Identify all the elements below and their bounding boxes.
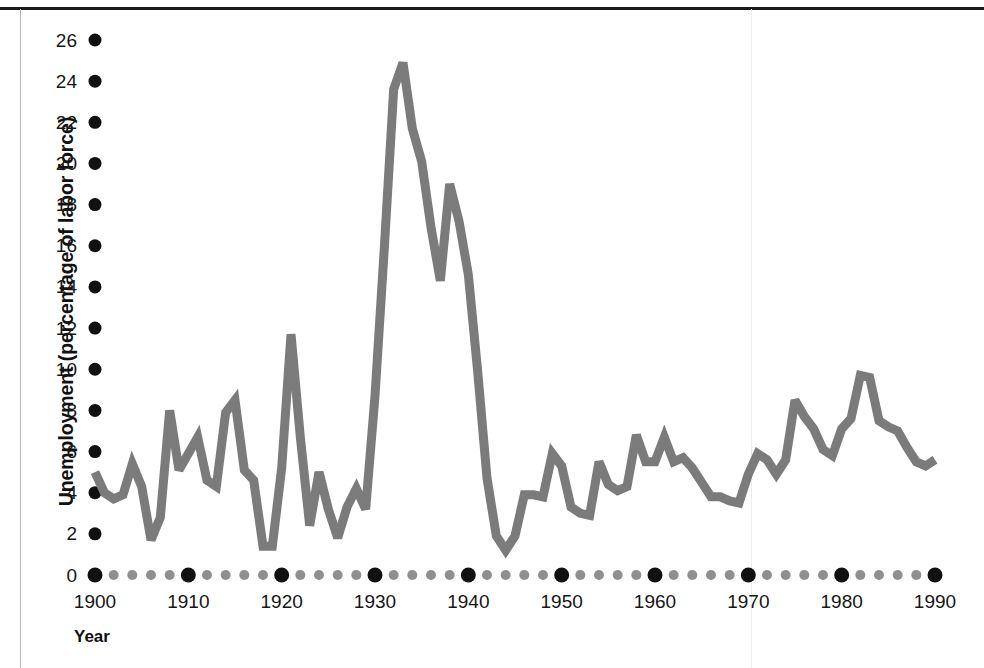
x-tick-dot-minor (538, 570, 548, 580)
x-tick-dot-minor (127, 570, 137, 580)
y-tick-label: 4 (37, 483, 77, 502)
x-tick-dot-minor (351, 570, 361, 580)
y-tick-dot (89, 116, 102, 129)
x-tick-label: 1930 (335, 592, 415, 611)
x-tick-dot-major (741, 568, 756, 583)
y-tick-label: 12 (37, 319, 77, 338)
x-tick-dot-minor (631, 570, 641, 580)
x-tick-dot-group (88, 568, 943, 583)
y-tick-dot (89, 322, 102, 335)
y-tick-dot (89, 157, 102, 170)
plot-area (0, 0, 984, 668)
x-tick-label: 1980 (802, 592, 882, 611)
x-tick-dot-minor (295, 570, 305, 580)
x-tick-dot-minor (725, 570, 735, 580)
x-tick-label: 1910 (148, 592, 228, 611)
x-tick-dot-minor (519, 570, 529, 580)
x-tick-dot-minor (799, 570, 809, 580)
y-tick-label: 22 (37, 113, 77, 132)
y-tick-label: 16 (37, 236, 77, 255)
y-tick-label: 2 (37, 524, 77, 543)
x-tick-dot-minor (706, 570, 716, 580)
x-tick-dot-major (461, 568, 476, 583)
y-tick-label: 0 (37, 566, 77, 585)
x-tick-dot-minor (426, 570, 436, 580)
unemployment-line-chart (0, 0, 984, 668)
x-tick-dot-major (648, 568, 663, 583)
y-tick-dot (89, 527, 102, 540)
x-tick-dot-major (928, 568, 943, 583)
y-tick-dot (89, 280, 102, 293)
y-tick-label: 8 (37, 401, 77, 420)
x-tick-label: 1950 (522, 592, 602, 611)
y-tick-dot (89, 34, 102, 47)
x-tick-dot-minor (594, 570, 604, 580)
x-tick-label: 1900 (55, 592, 135, 611)
y-tick-dot (89, 75, 102, 88)
x-tick-dot-minor (482, 570, 492, 580)
x-tick-dot-minor (202, 570, 212, 580)
y-tick-label: 14 (37, 277, 77, 296)
x-tick-dot-major (274, 568, 289, 583)
x-tick-dot-minor (239, 570, 249, 580)
y-tick-label: 24 (37, 72, 77, 91)
x-tick-dot-minor (687, 570, 697, 580)
x-tick-dot-minor (221, 570, 231, 580)
y-tick-label: 10 (37, 360, 77, 379)
x-tick-dot-minor (613, 570, 623, 580)
y-tick-label: 18 (37, 195, 77, 214)
x-tick-dot-minor (258, 570, 268, 580)
x-tick-label: 1970 (708, 592, 788, 611)
y-tick-dot (89, 445, 102, 458)
x-tick-dot-minor (501, 570, 511, 580)
chart-page: Unemployment (percentage of labor force)… (0, 0, 984, 668)
x-tick-dot-major (181, 568, 196, 583)
x-tick-dot-minor (407, 570, 417, 580)
y-tick-dot-group (89, 34, 102, 582)
x-tick-dot-minor (109, 570, 119, 580)
x-tick-label: 1920 (242, 592, 322, 611)
y-tick-label: 6 (37, 442, 77, 461)
x-tick-dot-minor (874, 570, 884, 580)
y-tick-label: 26 (37, 31, 77, 50)
x-tick-dot-minor (165, 570, 175, 580)
x-tick-dot-minor (762, 570, 772, 580)
y-tick-dot (89, 363, 102, 376)
y-tick-dot (89, 404, 102, 417)
x-tick-dot-major (368, 568, 383, 583)
y-tick-dot (89, 198, 102, 211)
x-tick-label: 1990 (895, 592, 975, 611)
x-tick-dot-major (834, 568, 849, 583)
x-tick-dot-minor (445, 570, 455, 580)
x-tick-dot-minor (389, 570, 399, 580)
x-tick-dot-minor (855, 570, 865, 580)
x-tick-dot-minor (911, 570, 921, 580)
x-tick-dot-minor (575, 570, 585, 580)
x-tick-dot-minor (333, 570, 343, 580)
y-tick-label: 20 (37, 154, 77, 173)
x-tick-dot-minor (669, 570, 679, 580)
x-tick-dot-minor (146, 570, 156, 580)
x-tick-label: 1960 (615, 592, 695, 611)
x-tick-dot-minor (781, 570, 791, 580)
x-tick-dot-minor (893, 570, 903, 580)
x-tick-dot-major (554, 568, 569, 583)
unemployment-series-line (95, 63, 935, 551)
y-tick-dot (89, 239, 102, 252)
x-tick-dot-major (88, 568, 103, 583)
x-tick-dot-minor (314, 570, 324, 580)
x-tick-dot-minor (818, 570, 828, 580)
x-tick-label: 1940 (428, 592, 508, 611)
